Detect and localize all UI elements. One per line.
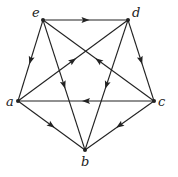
arrowhead-icon	[94, 56, 104, 66]
node-label-e: e	[32, 5, 40, 20]
node-e	[41, 18, 45, 22]
node-label-a: a	[6, 94, 14, 109]
node-d	[126, 18, 130, 22]
arrowhead-icon	[60, 80, 68, 89]
node-label-b: b	[81, 154, 89, 169]
node-a	[16, 99, 20, 103]
nodes-layer: edacb	[6, 5, 166, 169]
arrowhead-icon	[115, 121, 125, 131]
arrowhead-icon	[26, 56, 34, 65]
directed-graph: edacb	[0, 0, 178, 177]
arrowhead-icon	[47, 121, 57, 131]
arrowhead-icon	[102, 80, 110, 89]
node-c	[152, 99, 156, 103]
arrowhead-icon	[137, 56, 145, 65]
node-label-c: c	[158, 94, 166, 109]
arrowhead-icon	[68, 56, 78, 66]
edges-layer	[18, 17, 154, 150]
node-b	[83, 148, 87, 152]
node-label-d: d	[132, 5, 140, 20]
